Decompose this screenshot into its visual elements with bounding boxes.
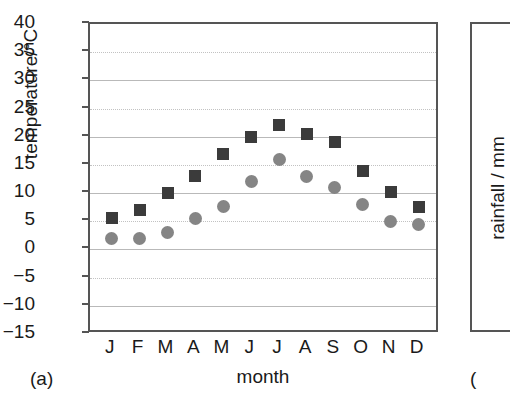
gridline <box>90 137 436 138</box>
neighbour-panel-y-axis-title: rainfall / mm <box>487 88 513 288</box>
gridline <box>90 306 436 307</box>
data-point <box>106 212 118 224</box>
data-point <box>357 165 369 177</box>
gridline <box>90 80 436 81</box>
y-axis-tick-mark <box>82 162 89 164</box>
x-axis-tick-label: S <box>318 337 348 356</box>
y-axis-tick-label: 10 <box>0 181 35 200</box>
x-axis-tick-label: M <box>206 337 236 356</box>
y-axis-tick-mark <box>82 49 89 51</box>
data-point <box>385 186 397 198</box>
panel-label-b: ( <box>470 368 476 390</box>
x-axis-tick-label: A <box>290 337 320 356</box>
data-point <box>328 181 341 194</box>
y-axis-tick-mark <box>82 331 89 333</box>
data-point <box>161 226 174 239</box>
data-point <box>412 218 425 231</box>
data-point <box>329 136 341 148</box>
y-axis-tick-mark <box>82 303 89 305</box>
data-point <box>413 201 425 213</box>
y-axis-tick-mark <box>82 21 89 23</box>
y-axis-tick-mark <box>82 275 89 277</box>
y-axis-tick-label: 20 <box>0 125 35 144</box>
data-point <box>134 204 146 216</box>
y-axis-tick-label: −10 <box>0 294 35 313</box>
data-point <box>384 215 397 228</box>
data-point <box>273 153 286 166</box>
gridline <box>90 249 436 250</box>
y-axis-tick-label: 30 <box>0 68 35 87</box>
gridline <box>90 109 436 110</box>
data-point <box>301 128 313 140</box>
gridline <box>90 278 436 279</box>
x-axis-title: month <box>88 366 438 388</box>
x-axis-tick-label: M <box>151 337 181 356</box>
gridline <box>90 165 436 166</box>
x-axis-tick-label: N <box>374 337 404 356</box>
y-axis-tick-mark <box>82 106 89 108</box>
data-point <box>245 175 258 188</box>
x-axis-tick-label: J <box>95 337 125 356</box>
data-point <box>162 187 174 199</box>
y-axis-tick-label: −5 <box>0 266 35 285</box>
y-axis-tick-label: 0 <box>0 237 35 256</box>
data-point <box>245 131 257 143</box>
panel-label-a: (a) <box>30 368 53 390</box>
x-axis-tick-label: F <box>123 337 153 356</box>
y-axis-tick-mark <box>82 246 89 248</box>
data-point <box>300 170 313 183</box>
data-point <box>189 212 202 225</box>
data-point <box>105 232 118 245</box>
y-axis-tick-label: 15 <box>0 153 35 172</box>
x-axis-tick-label: O <box>346 337 376 356</box>
y-axis-tick-label: 35 <box>0 40 35 59</box>
gridline <box>90 52 436 53</box>
data-point <box>273 119 285 131</box>
y-axis-tick-mark <box>82 134 89 136</box>
data-point <box>133 232 146 245</box>
data-point <box>217 200 230 213</box>
x-axis-tick-label: D <box>402 337 432 356</box>
y-axis-tick-mark <box>82 77 89 79</box>
data-point <box>189 170 201 182</box>
x-axis-tick-label: J <box>234 337 264 356</box>
y-axis-tick-mark <box>82 190 89 192</box>
data-point <box>217 148 229 160</box>
y-axis-tick-label: 40 <box>0 12 35 31</box>
y-axis-tick-mark <box>82 218 89 220</box>
y-axis-tick-label: 5 <box>0 209 35 228</box>
y-axis-tick-label: −15 <box>0 322 35 341</box>
y-axis-tick-label: 25 <box>0 97 35 116</box>
plot-area <box>88 22 438 332</box>
x-axis-tick-label: J <box>262 337 292 356</box>
x-axis-tick-label: A <box>178 337 208 356</box>
data-point <box>356 198 369 211</box>
